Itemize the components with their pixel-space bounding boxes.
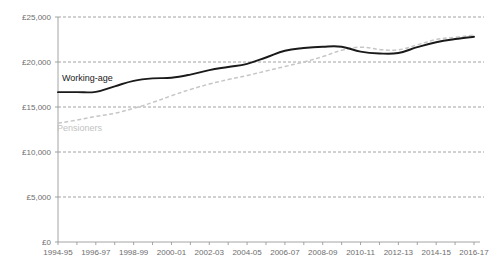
x-tick-labels: 1994-951996-971998-992000-012002-032004-… bbox=[43, 248, 489, 257]
x-axis-group: 1994-951996-971998-992000-012002-032004-… bbox=[43, 242, 489, 257]
x-tick-label: 1994-95 bbox=[43, 248, 73, 257]
series-label-pensioners: Pensioners bbox=[57, 123, 103, 133]
y-tick-labels: £0£5,000£10,000£15,000£20,000£25,000 bbox=[22, 13, 51, 247]
y-tick-label: £0 bbox=[42, 238, 51, 247]
x-tick-label: 2008-09 bbox=[308, 248, 338, 257]
gridlines-group bbox=[55, 17, 484, 242]
x-tick-label: 2014-15 bbox=[422, 248, 452, 257]
y-tick-label: £20,000 bbox=[22, 58, 51, 67]
x-tick-label: 1998-99 bbox=[119, 248, 149, 257]
x-tick-label: 2006-07 bbox=[270, 248, 300, 257]
y-axis-group: £0£5,000£10,000£15,000£20,000£25,000 bbox=[22, 13, 58, 247]
y-tick-label: £15,000 bbox=[22, 103, 51, 112]
y-tick-label: £25,000 bbox=[22, 13, 51, 22]
series-label-working-age: Working-age bbox=[62, 73, 113, 83]
x-tick-label: 2012-13 bbox=[384, 248, 414, 257]
y-tick-label: £10,000 bbox=[22, 148, 51, 157]
x-tick-label: 2010-11 bbox=[346, 248, 375, 257]
x-tick-label: 2016-17 bbox=[459, 248, 489, 257]
line-chart: £0£5,000£10,000£15,000£20,000£25,000 199… bbox=[0, 0, 503, 270]
x-tick-label: 2002-03 bbox=[195, 248, 225, 257]
x-tick-label: 1996-97 bbox=[81, 248, 111, 257]
x-tick-label: 2000-01 bbox=[157, 248, 187, 257]
series-line-working-age bbox=[58, 37, 474, 93]
x-tick-label: 2004-05 bbox=[232, 248, 262, 257]
y-tick-label: £5,000 bbox=[27, 193, 52, 202]
chart-container: £0£5,000£10,000£15,000£20,000£25,000 199… bbox=[0, 0, 503, 270]
